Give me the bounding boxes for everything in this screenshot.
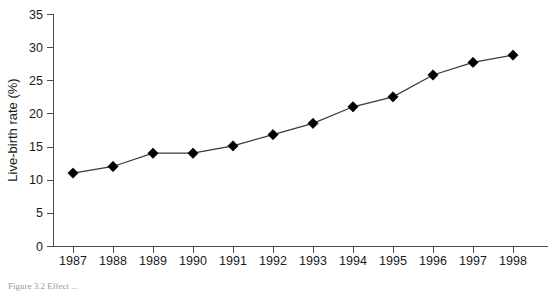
y-tick-label: 0: [36, 240, 43, 254]
x-tick-label: 1994: [339, 254, 367, 268]
figure-caption: Figure 3.2 Effect ...: [8, 281, 552, 297]
data-point-marker: [428, 70, 438, 80]
data-point-marker: [508, 50, 518, 60]
y-tick-label: 20: [29, 107, 43, 121]
y-tick-label: 10: [29, 173, 43, 187]
y-tick-label: 35: [29, 8, 43, 22]
x-tick-label: 1987: [59, 254, 87, 268]
x-tick-label: 1989: [139, 254, 167, 268]
data-point-marker: [308, 118, 318, 128]
x-tick-label: 1997: [459, 254, 487, 268]
data-point-marker: [188, 148, 198, 158]
data-point-marker: [268, 129, 278, 139]
y-tick-label: 25: [29, 74, 43, 88]
data-point-marker: [388, 92, 398, 102]
x-tick-label: 1998: [499, 254, 527, 268]
data-point-marker: [468, 57, 478, 67]
x-axis-title: Year: [287, 265, 314, 268]
x-tick-label: 1992: [259, 254, 287, 268]
data-point-marker: [108, 161, 118, 171]
data-point-marker: [348, 102, 358, 112]
figure-container: 05101520253035 1987198819891990199119921…: [0, 0, 554, 297]
x-tick-label: 1990: [179, 254, 207, 268]
x-tick-label: 1988: [99, 254, 127, 268]
x-tick-label: 1991: [219, 254, 247, 268]
x-tick-label: 1996: [419, 254, 447, 268]
y-tick-label: 5: [36, 206, 43, 220]
data-point-marker: [148, 148, 158, 158]
series-line-live-birth-rate: [73, 55, 513, 173]
x-tick-label: 1995: [379, 254, 407, 268]
line-chart: 05101520253035 1987198819891990199119921…: [0, 0, 554, 268]
y-tick-label: 30: [29, 41, 43, 55]
y-tick-label: 15: [29, 140, 43, 154]
y-tick-group: 05101520253035: [29, 8, 53, 254]
data-point-marker: [228, 141, 238, 151]
chart-area: 05101520253035 1987198819891990199119921…: [0, 0, 554, 268]
y-axis-title: Live-birth rate (%): [5, 78, 20, 181]
data-point-marker: [68, 168, 78, 178]
